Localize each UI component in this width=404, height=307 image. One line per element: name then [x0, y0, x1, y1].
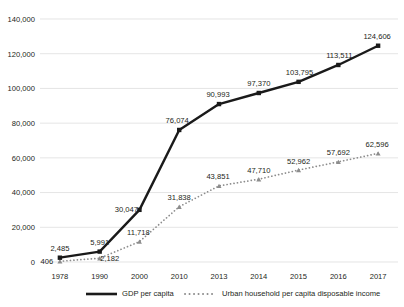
- x-axis-tick-label: 2016: [330, 272, 347, 281]
- data-point-label: 57,692: [327, 148, 350, 157]
- data-point-marker: [177, 205, 182, 209]
- data-point-label: 113,511: [326, 51, 352, 60]
- y-axis-tick-label: 80,000: [12, 119, 35, 128]
- y-axis-tick-label: 100,000: [8, 84, 35, 93]
- data-point-label: 47,710: [247, 166, 270, 175]
- y-axis-tick-label: 60,000: [12, 154, 35, 163]
- data-point-marker: [217, 102, 221, 106]
- legend-label-gdp-per-capita: GDP per capita: [122, 289, 175, 298]
- data-point-label: 90,993: [206, 90, 229, 99]
- chart-legend: GDP per capitaUrban household per capita…: [86, 289, 380, 298]
- legend-label-urban-income: Urban household per capita disposable in…: [222, 289, 380, 298]
- data-point-marker: [336, 63, 340, 67]
- data-point-label: 406: [41, 257, 54, 266]
- x-axis-tick-labels: 197819902000201020132014201520162017: [51, 272, 386, 281]
- data-point-label: 97,370: [247, 79, 270, 88]
- data-point-marker: [376, 151, 381, 155]
- y-axis-tick-label: 40,000: [12, 188, 35, 197]
- data-point-marker: [257, 91, 261, 95]
- data-point-marker: [296, 168, 301, 172]
- y-axis-tick-label: 120,000: [8, 50, 35, 59]
- data-point-label: 52,962: [287, 157, 310, 166]
- y-axis-tick-labels: 020,00040,00060,00080,000100,000120,0001…: [8, 15, 35, 267]
- x-axis-tick-label: 2010: [171, 272, 188, 281]
- data-point-marker: [376, 44, 380, 48]
- x-axis-tick-label: 2000: [131, 272, 148, 281]
- data-point-label: 76,074: [166, 116, 189, 125]
- x-axis-tick-label: 2014: [250, 272, 267, 281]
- data-point-marker: [137, 239, 142, 243]
- data-point-marker: [58, 255, 62, 259]
- line-chart: 020,00040,00060,00080,000100,000120,0001…: [0, 0, 404, 307]
- data-point-marker: [296, 80, 300, 84]
- x-axis-tick-label: 1978: [51, 272, 68, 281]
- data-point-label: 5,991: [90, 238, 109, 247]
- data-point-label: 124,606: [363, 32, 390, 41]
- y-axis-tick-label: 140,000: [8, 15, 35, 24]
- x-axis-tick-label: 2013: [211, 272, 228, 281]
- data-point-marker: [256, 177, 261, 181]
- data-point-label: 103,795: [286, 68, 313, 77]
- x-axis-tick-label: 2017: [370, 272, 387, 281]
- data-point-label: 11,718: [127, 228, 150, 237]
- data-point-label: 30,047: [115, 205, 138, 214]
- x-axis-tick-label: 1990: [91, 272, 108, 281]
- x-axis-tick-label: 2015: [290, 272, 307, 281]
- data-point-label: 2,485: [50, 244, 69, 253]
- data-point-marker: [177, 128, 181, 132]
- y-axis-tick-label: 20,000: [12, 223, 35, 232]
- data-point-label: 62,596: [365, 140, 388, 149]
- chart-container: 020,00040,00060,00080,000100,000120,0001…: [0, 0, 404, 307]
- data-point-label: 31,838: [168, 193, 191, 202]
- data-point-label: 43,851: [206, 172, 229, 181]
- data-point-label: 2,182: [100, 254, 119, 263]
- y-axis-tick-label: 0: [31, 258, 35, 267]
